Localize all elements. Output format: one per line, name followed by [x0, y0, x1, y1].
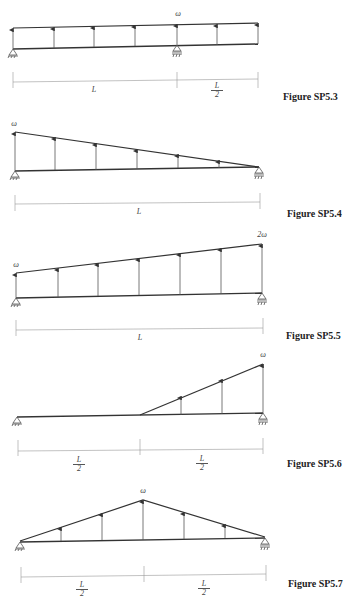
roller-support-icon [172, 45, 182, 57]
dimension-fraction: L 2 [73, 456, 85, 473]
roller-support-icon [260, 538, 270, 550]
figure-caption: Figure SP5.5 [286, 330, 341, 341]
figure-sp5-7: ω L 2 L 2 Figure SP5.7 [0, 475, 360, 604]
load-label-left: ω [10, 260, 22, 269]
pin-support-icon [12, 417, 22, 426]
figure-sp5-6: ω L 2 L 2 Figure SP5.6 [0, 350, 360, 475]
roller-support-icon [258, 413, 268, 425]
roller-support-icon [254, 167, 264, 179]
load-label: ω [172, 9, 184, 18]
dimension-label: L [133, 207, 145, 216]
load-label: ω [137, 486, 149, 495]
load-label: ω [8, 119, 20, 128]
dimension-fraction: L 2 [76, 581, 88, 598]
pin-support-icon [8, 49, 18, 58]
dimension-label: L [88, 85, 100, 94]
dimension-fraction: L 2 [196, 455, 208, 472]
pin-support-icon [15, 542, 25, 551]
pin-support-icon [10, 171, 20, 180]
figure-caption: Figure SP5.7 [288, 578, 343, 589]
load-label-right: 2ω [253, 230, 271, 239]
figure-sp5-5: ω 2ω L Figure SP5.5 [0, 230, 360, 350]
dimension-label: L [134, 333, 146, 342]
load-label: ω [257, 350, 269, 359]
figure-caption: Figure SP5.6 [287, 458, 342, 469]
pin-support-icon [11, 298, 21, 307]
beam-diagram-triangular-right-half [0, 350, 360, 475]
roller-support-icon [257, 293, 267, 305]
figure-sp5-4: ω L Figure SP5.4 [0, 115, 360, 230]
figure-caption: Figure SP5.3 [283, 91, 338, 102]
figure-sp5-3: ω L L 2 Figure SP5.3 [0, 0, 360, 115]
dimension-fraction: L 2 [211, 82, 223, 99]
figure-caption: Figure SP5.4 [287, 208, 342, 219]
dimension-fraction: L 2 [198, 580, 210, 597]
